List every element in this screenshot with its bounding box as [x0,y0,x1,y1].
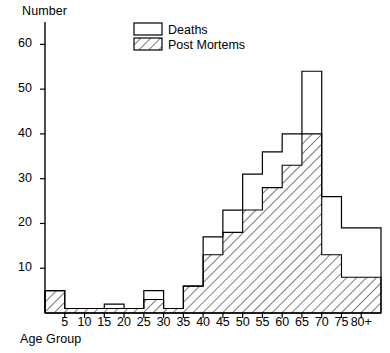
y-tick-20: 20 [6,215,32,229]
series-post-mortems [45,134,381,313]
y-tick-30: 30 [6,171,32,185]
legend-label-deaths: Deaths [168,23,208,37]
x-tick-80+: 80+ [346,315,376,329]
y-tick-40: 40 [6,126,32,140]
y-tick-10: 10 [6,260,32,274]
plot-area [0,0,390,353]
legend [134,23,162,50]
y-tick-60: 60 [6,36,32,50]
y-tick-50: 50 [6,81,32,95]
histogram-chart: Number Age Group 102030405060 5101520253… [0,0,390,353]
legend-label-post-mortems: Post Mortems [168,38,245,52]
